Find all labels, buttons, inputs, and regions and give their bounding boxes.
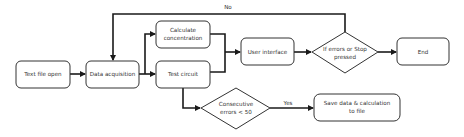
node-label: User interface [248, 49, 288, 55]
edge-no-loop [113, 14, 345, 60]
node-label: Test circuit [167, 71, 199, 77]
edge-merge [210, 34, 225, 72]
node-label-line2: to file [349, 108, 365, 114]
edge-testcircuit-to-consecutive [183, 88, 200, 108]
node-label-line1: Calculate [170, 27, 197, 33]
node-label-line1: Consecutive [219, 101, 254, 107]
node-errors-or-stop-decision: If errors or Stop pressed [312, 32, 378, 73]
node-label: Text file open [23, 71, 62, 78]
node-label-line1: If errors or Stop [323, 46, 367, 53]
node-label-line2: errors < 50 [220, 109, 252, 115]
node-text-file-open: Text file open [16, 61, 70, 88]
node-label: End [418, 49, 429, 55]
node-test-circuit: Test circuit [156, 61, 210, 88]
node-label: Data acquisition [90, 71, 136, 78]
edge-acquisition-to-calculate [145, 34, 155, 74]
edge-label-yes: Yes [282, 100, 292, 106]
node-save-data: Save data & calculation to file [314, 94, 400, 121]
node-label-line2: pressed [334, 54, 356, 61]
node-data-acquisition: Data acquisition [86, 61, 139, 88]
node-end: End [397, 38, 449, 65]
flowchart: No Yes Text file open Data acquisition C… [0, 0, 464, 137]
node-label-line1: Save data & calculation [324, 100, 391, 106]
node-calculate-concentration: Calculate concentration [156, 21, 210, 48]
edge-label-no: No [224, 4, 232, 10]
flowchart-canvas: No Yes Text file open Data acquisition C… [0, 0, 464, 137]
node-label-line2: concentration [164, 35, 203, 41]
node-consecutive-errors-decision: Consecutive errors < 50 [201, 88, 270, 129]
node-user-interface: User interface [241, 38, 294, 65]
